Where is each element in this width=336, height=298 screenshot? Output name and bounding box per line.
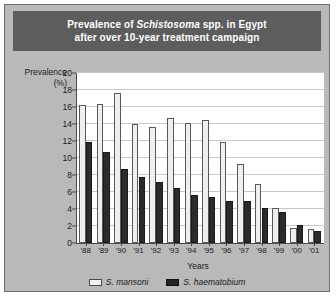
x-axis-tick-mark <box>226 243 227 246</box>
bar-mansoni <box>97 104 104 243</box>
bar-mansoni <box>132 124 139 243</box>
x-axis-tick-mark <box>191 243 192 246</box>
chart-title-line-1: Prevalence of Schistosoma spp. in Egypt <box>67 18 267 31</box>
bar-mansoni <box>185 123 192 243</box>
bar-series-container <box>77 73 323 243</box>
x-axis-tick-label: '89 <box>98 246 108 255</box>
y-axis-tick-label: 14 <box>63 119 72 129</box>
bar-haematobium <box>226 201 233 244</box>
bar-haematobium <box>209 197 216 243</box>
bar-mansoni <box>220 142 227 243</box>
chart-title-suffix: spp. in Egypt <box>200 19 267 30</box>
x-axis-tick-mark <box>103 243 104 246</box>
x-axis-tick-mark <box>121 243 122 246</box>
legend-swatch-mansoni-icon <box>89 279 102 286</box>
bar-mansoni <box>308 229 315 243</box>
legend-item-haematobium: S. haematobium <box>166 277 245 287</box>
x-axis-tick-mark <box>314 243 315 246</box>
x-axis-tick-label: '93 <box>168 246 178 255</box>
bar-mansoni <box>272 208 279 243</box>
bar-haematobium <box>262 208 269 243</box>
x-axis-title: Years <box>69 261 327 271</box>
chart-title-italic-word: Schistosoma <box>136 19 199 30</box>
bar-haematobium <box>297 225 304 243</box>
bar-mansoni <box>149 127 156 243</box>
x-axis-tick-label: '96 <box>221 246 231 255</box>
x-axis-tick-mark <box>139 243 140 246</box>
chart-legend: S. mansoni S. haematobium <box>13 277 321 287</box>
x-axis-ticks: '88'89'90'91'92'93'94'95'96'97'98'99'00'… <box>77 246 323 258</box>
x-axis-tick-mark <box>244 243 245 246</box>
bar-mansoni <box>114 93 121 243</box>
x-axis-tick-label: '94 <box>186 246 196 255</box>
x-axis-tick-label: '01 <box>309 246 319 255</box>
y-axis-tick-label: 16 <box>63 102 72 112</box>
y-axis-tick-label: 18 <box>63 85 72 95</box>
bar-mansoni <box>290 228 297 243</box>
bar-haematobium <box>103 152 110 243</box>
bar-haematobium <box>244 201 251 243</box>
bar-haematobium <box>174 188 181 243</box>
bar-mansoni <box>255 184 262 243</box>
legend-label-haematobium: S. haematobium <box>183 277 245 287</box>
y-axis-tick-label: 10 <box>63 153 72 163</box>
x-axis-tick-label: '92 <box>151 246 161 255</box>
x-axis-tick-label: '95 <box>204 246 214 255</box>
bar-haematobium <box>279 212 286 243</box>
y-axis-tick-label: 20 <box>63 68 72 78</box>
x-axis-tick-mark <box>209 243 210 246</box>
legend-item-mansoni: S. mansoni <box>89 277 149 287</box>
chart-title-prefix: Prevalence of <box>67 19 136 30</box>
x-axis-tick-mark <box>297 243 298 246</box>
x-axis-tick-mark <box>86 243 87 246</box>
chart-figure: Prevalence of Schistosoma spp. in Egypt … <box>4 4 330 292</box>
bar-mansoni <box>79 105 86 243</box>
x-axis-tick-label: '91 <box>133 246 143 255</box>
bar-haematobium <box>156 182 163 243</box>
bar-mansoni <box>202 120 209 243</box>
bar-mansoni <box>167 118 174 243</box>
x-axis-tick-label: '97 <box>239 246 249 255</box>
legend-swatch-haematobium-icon <box>166 279 179 286</box>
x-axis-tick-mark <box>174 243 175 246</box>
x-axis-tick-label: '99 <box>274 246 284 255</box>
y-axis-ticks: 02468101214161820 <box>45 73 76 243</box>
chart-title-bar: Prevalence of Schistosoma spp. in Egypt … <box>13 11 321 51</box>
chart-title-line-2: after over 10-year treatment campaign <box>75 31 260 44</box>
legend-label-mansoni: S. mansoni <box>106 277 149 287</box>
bar-haematobium <box>86 142 93 243</box>
bar-haematobium <box>139 177 146 243</box>
x-axis-tick-mark <box>262 243 263 246</box>
bar-haematobium <box>191 195 198 243</box>
x-axis-tick-label: '90 <box>116 246 126 255</box>
x-axis-tick-label: '98 <box>256 246 266 255</box>
x-axis-tick-mark <box>279 243 280 246</box>
x-axis-tick-label: '88 <box>81 246 91 255</box>
bar-mansoni <box>237 164 244 243</box>
bar-haematobium <box>314 231 321 243</box>
x-axis-tick-label: '00 <box>291 246 301 255</box>
y-axis-tick-label: 12 <box>63 136 72 146</box>
bar-haematobium <box>121 169 128 243</box>
x-axis-tick-mark <box>156 243 157 246</box>
